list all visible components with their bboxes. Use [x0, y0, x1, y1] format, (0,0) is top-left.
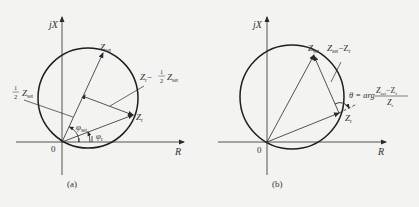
svg-text:θ = arg: θ = arg — [349, 90, 375, 100]
caption-a: (a) — [67, 179, 77, 189]
z-set-label: Zset — [308, 43, 320, 54]
svg-text:Zr: Zr — [387, 98, 393, 108]
diff-label: Zr− 1 2 Zset — [140, 68, 179, 84]
svg-text:1: 1 — [160, 68, 163, 75]
diff-vector — [85, 97, 133, 115]
svg-text:Zset: Zset — [22, 88, 34, 99]
half-z-set-label: 1 2 Zset — [13, 84, 34, 100]
phi-r-label: φr — [96, 131, 103, 142]
operating-circle — [240, 45, 344, 149]
impedance-circle-diagram: jX R 0 Zset 1 2 Zset Zr− 1 2 Zset Zr φse… — [0, 0, 419, 207]
z-r-label: Zr — [136, 112, 143, 123]
svg-text:1: 1 — [14, 84, 17, 91]
phi-r-arc — [88, 132, 90, 142]
half-z-set-leader — [24, 100, 73, 117]
svg-text:2: 2 — [160, 77, 163, 84]
diff-vector — [314, 56, 339, 113]
z-r-label: Zr — [345, 113, 352, 124]
panel-b-labels: jX R 0 Zset Zset−Zr Zr θ = arg Zset−Zr Z… — [251, 19, 408, 189]
z-set-label: Zset — [100, 42, 112, 53]
svg-text:2: 2 — [14, 93, 17, 100]
diff-leader — [110, 86, 144, 106]
panel-a — [16, 17, 184, 175]
z-set-vector — [267, 55, 314, 142]
svg-text:Zset: Zset — [167, 72, 179, 83]
svg-text:Zset−Zr: Zset−Zr — [376, 86, 397, 96]
jx-axis-label: jX — [47, 19, 59, 30]
caption-b: (b) — [272, 179, 283, 189]
phi-set-label: φset — [76, 122, 88, 133]
svg-text:Zr−: Zr− — [140, 72, 152, 83]
jx-axis-label: jX — [251, 19, 263, 30]
diff-label: Zset−Zr — [327, 43, 351, 54]
r-axis-label: R — [174, 146, 181, 157]
origin-label: 0 — [51, 144, 56, 154]
r-axis-label: R — [377, 146, 384, 157]
origin-label: 0 — [257, 145, 262, 155]
theta-arc — [335, 103, 349, 108]
theta-formula: θ = arg Zset−Zr Zr — [349, 86, 408, 108]
z-r-vector — [267, 113, 339, 142]
